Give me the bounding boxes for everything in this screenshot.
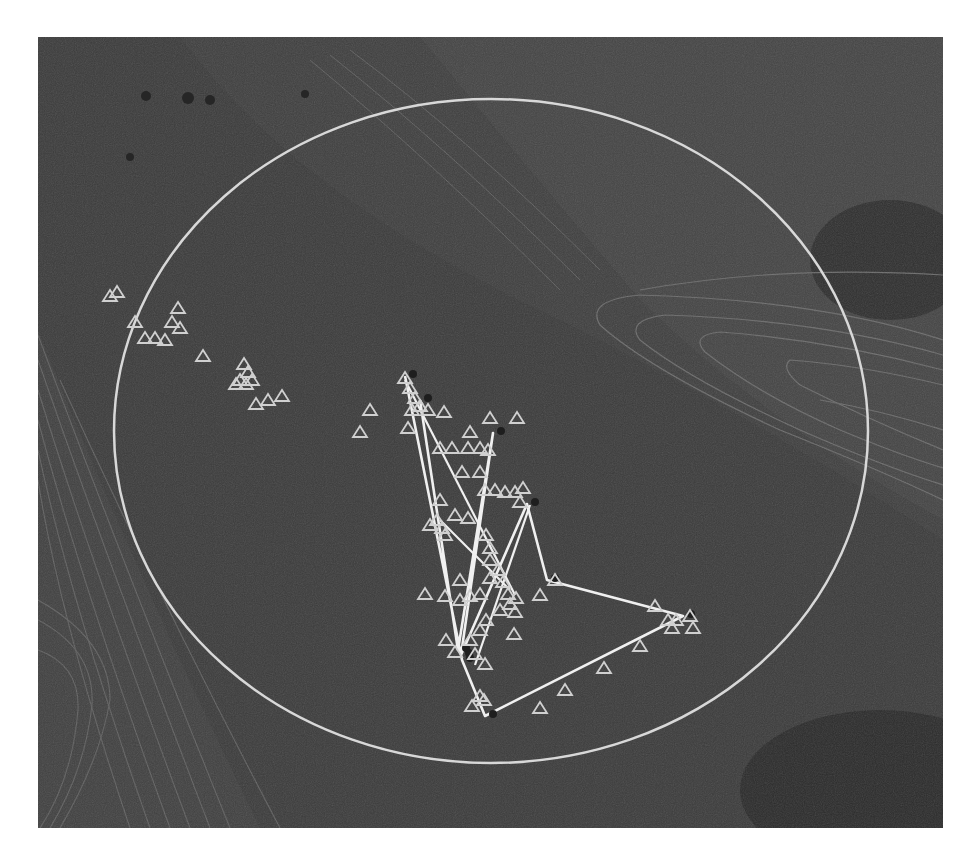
track-vertex-marker	[489, 710, 497, 718]
map-view[interactable]	[38, 37, 943, 828]
track-vertex-marker	[531, 498, 539, 506]
aerial-noise-texture	[38, 37, 943, 828]
map-canvas[interactable]	[38, 37, 943, 828]
track-vertex-marker	[424, 394, 432, 402]
track-vertex-marker	[497, 427, 505, 435]
track-vertex-marker	[409, 370, 417, 378]
